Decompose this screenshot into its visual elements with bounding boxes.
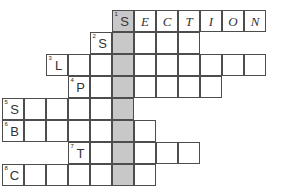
crossword-cell-r8-c5[interactable] xyxy=(90,164,112,186)
crossword-cell-r5-c3[interactable] xyxy=(46,98,68,120)
cell-letter: T xyxy=(179,14,199,29)
crossword-cell-r1-c8[interactable]: C xyxy=(156,10,178,32)
crossword-cell-r7-c8[interactable] xyxy=(156,142,178,164)
crossword-cell-r4-c10[interactable] xyxy=(200,76,222,98)
crossword-cell-r3-c4[interactable] xyxy=(68,54,90,76)
crossword-cell-r4-c7[interactable] xyxy=(134,76,156,98)
crossword-cell-r8-c6[interactable] xyxy=(112,164,134,186)
crossword-cell-r3-c5[interactable] xyxy=(90,54,112,76)
crossword-cell-r4-c8[interactable] xyxy=(156,76,178,98)
crossword-cell-r1-c11[interactable]: O xyxy=(222,10,244,32)
crossword-cell-r4-c4[interactable]: 4P xyxy=(68,76,90,98)
crossword-cell-r6-c4[interactable] xyxy=(68,120,90,142)
crossword-cell-r3-c11[interactable] xyxy=(222,54,244,76)
cell-letter: C xyxy=(3,168,23,183)
crossword-grid: 1SECTION2S3L4P5S6B7T8C xyxy=(0,0,300,196)
crossword-cell-r7-c9[interactable] xyxy=(178,142,200,164)
cell-letter: L xyxy=(47,58,67,73)
crossword-cell-r2-c8[interactable] xyxy=(156,32,178,54)
crossword-cell-r2-c5[interactable]: 2S xyxy=(90,32,112,54)
cell-letter: S xyxy=(3,102,23,117)
crossword-cell-r1-c9[interactable]: T xyxy=(178,10,200,32)
crossword-cell-r3-c10[interactable] xyxy=(200,54,222,76)
cell-letter: S xyxy=(91,36,111,51)
cell-letter: S xyxy=(113,14,133,29)
crossword-cell-r6-c2[interactable] xyxy=(24,120,46,142)
cell-letter: T xyxy=(69,146,89,161)
crossword-cell-r7-c4[interactable]: 7T xyxy=(68,142,90,164)
crossword-cell-r5-c4[interactable] xyxy=(68,98,90,120)
crossword-cell-r8-c3[interactable] xyxy=(46,164,68,186)
crossword-cell-r6-c6[interactable] xyxy=(112,120,134,142)
crossword-cell-r8-c2[interactable] xyxy=(24,164,46,186)
crossword-cell-r1-c6[interactable]: 1S xyxy=(112,10,134,32)
crossword-cell-r1-c12[interactable]: N xyxy=(244,10,266,32)
cell-letter: B xyxy=(3,124,23,139)
cell-letter: I xyxy=(201,14,221,29)
crossword-cell-r2-c9[interactable] xyxy=(178,32,200,54)
crossword-cell-r5-c5[interactable] xyxy=(90,98,112,120)
crossword-cell-r4-c5[interactable] xyxy=(90,76,112,98)
crossword-cell-r5-c6[interactable] xyxy=(112,98,134,120)
crossword-cell-r4-c6[interactable] xyxy=(112,76,134,98)
crossword-cell-r6-c3[interactable] xyxy=(46,120,68,142)
crossword-cell-r1-c7[interactable]: E xyxy=(134,10,156,32)
cell-letter: P xyxy=(69,80,89,95)
crossword-cell-r6-c5[interactable] xyxy=(90,120,112,142)
cell-letter: E xyxy=(135,14,155,29)
crossword-cell-r8-c7[interactable] xyxy=(134,164,156,186)
crossword-cell-r5-c2[interactable] xyxy=(24,98,46,120)
crossword-cell-r7-c7[interactable] xyxy=(134,142,156,164)
crossword-cell-r2-c6[interactable] xyxy=(112,32,134,54)
cell-letter: N xyxy=(245,14,265,29)
crossword-cell-r3-c12[interactable] xyxy=(244,54,266,76)
crossword-cell-r8-c4[interactable] xyxy=(68,164,90,186)
crossword-cell-r3-c9[interactable] xyxy=(178,54,200,76)
crossword-cell-r3-c8[interactable] xyxy=(156,54,178,76)
crossword-cell-r3-c3[interactable]: 3L xyxy=(46,54,68,76)
crossword-cell-r1-c10[interactable]: I xyxy=(200,10,222,32)
crossword-cell-r4-c9[interactable] xyxy=(178,76,200,98)
crossword-cell-r3-c6[interactable] xyxy=(112,54,134,76)
crossword-cell-r7-c6[interactable] xyxy=(112,142,134,164)
crossword-cell-r6-c7[interactable] xyxy=(134,120,156,142)
crossword-cell-r5-c1[interactable]: 5S xyxy=(2,98,24,120)
cell-letter: O xyxy=(223,14,243,29)
crossword-cell-r3-c7[interactable] xyxy=(134,54,156,76)
crossword-cell-r8-c1[interactable]: 8C xyxy=(2,164,24,186)
crossword-cell-r6-c1[interactable]: 6B xyxy=(2,120,24,142)
crossword-cell-r2-c7[interactable] xyxy=(134,32,156,54)
cell-letter: C xyxy=(157,14,177,29)
crossword-cell-r7-c5[interactable] xyxy=(90,142,112,164)
